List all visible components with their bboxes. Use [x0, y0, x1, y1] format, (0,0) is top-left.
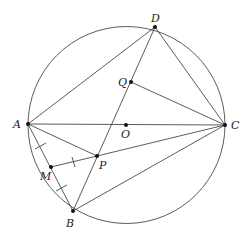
- segment-DC: [155, 27, 225, 125]
- point-C: [223, 123, 227, 127]
- point-O: [124, 123, 128, 127]
- point-M: [49, 165, 53, 169]
- segment-MP: [51, 156, 97, 167]
- segment-PC: [97, 125, 225, 156]
- label-O: O: [121, 128, 130, 141]
- point-P: [95, 154, 99, 158]
- tick-mark-MB: [56, 185, 67, 191]
- label-P: P: [98, 159, 107, 172]
- point-D: [153, 25, 157, 29]
- label-Q: Q: [118, 76, 127, 89]
- segment-QC: [131, 82, 225, 125]
- segment-AD: [28, 27, 155, 124]
- label-M: M: [39, 170, 52, 183]
- segment-BD: [73, 27, 155, 211]
- point-Q: [129, 80, 133, 84]
- segment-AP: [28, 124, 97, 156]
- label-B: B: [65, 217, 74, 230]
- geometry-diagram: A B C D O P Q M: [0, 0, 250, 242]
- segment-BC: [73, 125, 225, 211]
- label-C: C: [231, 119, 240, 132]
- point-B: [71, 209, 75, 213]
- label-A: A: [12, 118, 21, 131]
- label-D: D: [150, 12, 160, 25]
- point-A: [26, 122, 30, 126]
